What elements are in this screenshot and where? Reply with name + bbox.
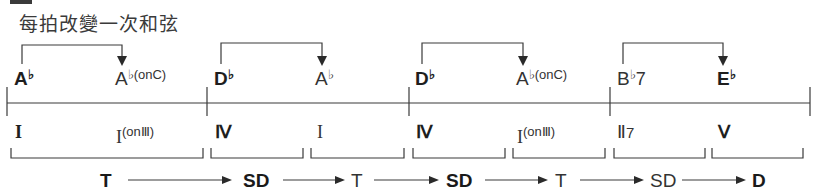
function-label-T: T (555, 170, 567, 192)
roman-m4-b2: Ⅴ (718, 121, 730, 143)
change-arrow-2 (221, 43, 322, 64)
change-arrow-4 (623, 43, 723, 64)
group-bracket-T (11, 148, 203, 158)
roman-m2-b2: I (317, 121, 323, 143)
roman-m3-b1: Ⅳ (416, 121, 433, 143)
group-bracket-SD2 (413, 148, 505, 158)
group-bracket-T3 (513, 148, 605, 158)
group-bracket-T2 (311, 148, 404, 158)
chord-m2-b2: A♭ (315, 64, 334, 90)
chord-m1-b2: A♭(onC) (115, 64, 166, 90)
function-label-D: D (752, 170, 766, 192)
roman-m2-b1: Ⅳ (215, 121, 232, 143)
function-label-T: T (351, 170, 363, 192)
roman-m1-b2: I(onⅢ) (116, 121, 154, 148)
staff-lines (0, 0, 815, 194)
roman-m4-b1: Ⅱ7 (617, 121, 634, 144)
roman-m1-b1: I (15, 121, 22, 143)
chord-m3-b1: D♭ (415, 64, 435, 90)
group-bracket-SD3 (614, 148, 705, 158)
chord-m3-b2: A♭(onC) (516, 64, 567, 90)
roman-m3-b2: I(onⅢ) (517, 121, 555, 148)
group-bracket-D (712, 148, 803, 158)
function-label-T: T (100, 170, 112, 192)
group-bracket-SD (211, 148, 303, 158)
chord-m4-b1: B♭7 (617, 64, 646, 90)
chord-m2-b1: D♭ (214, 64, 234, 90)
change-arrow-1 (22, 45, 122, 64)
chord-m4-b2: E♭ (717, 64, 736, 90)
function-label-SD: SD (243, 170, 269, 192)
change-arrow-3 (422, 43, 523, 64)
chord-m1-b1: A♭ (14, 64, 34, 90)
function-label-SD: SD (446, 170, 472, 192)
function-label-SD: SD (650, 170, 676, 192)
